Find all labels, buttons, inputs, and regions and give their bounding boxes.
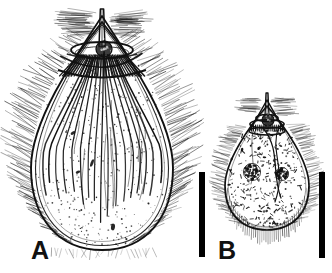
- scale-bar-a: [199, 172, 205, 257]
- scale-bar-b: [319, 172, 325, 258]
- panel-label-a: A: [31, 238, 49, 263]
- figure-canvas: A B: [0, 0, 332, 273]
- panel-label-b: B: [218, 238, 236, 263]
- figure-illustration: [0, 0, 332, 273]
